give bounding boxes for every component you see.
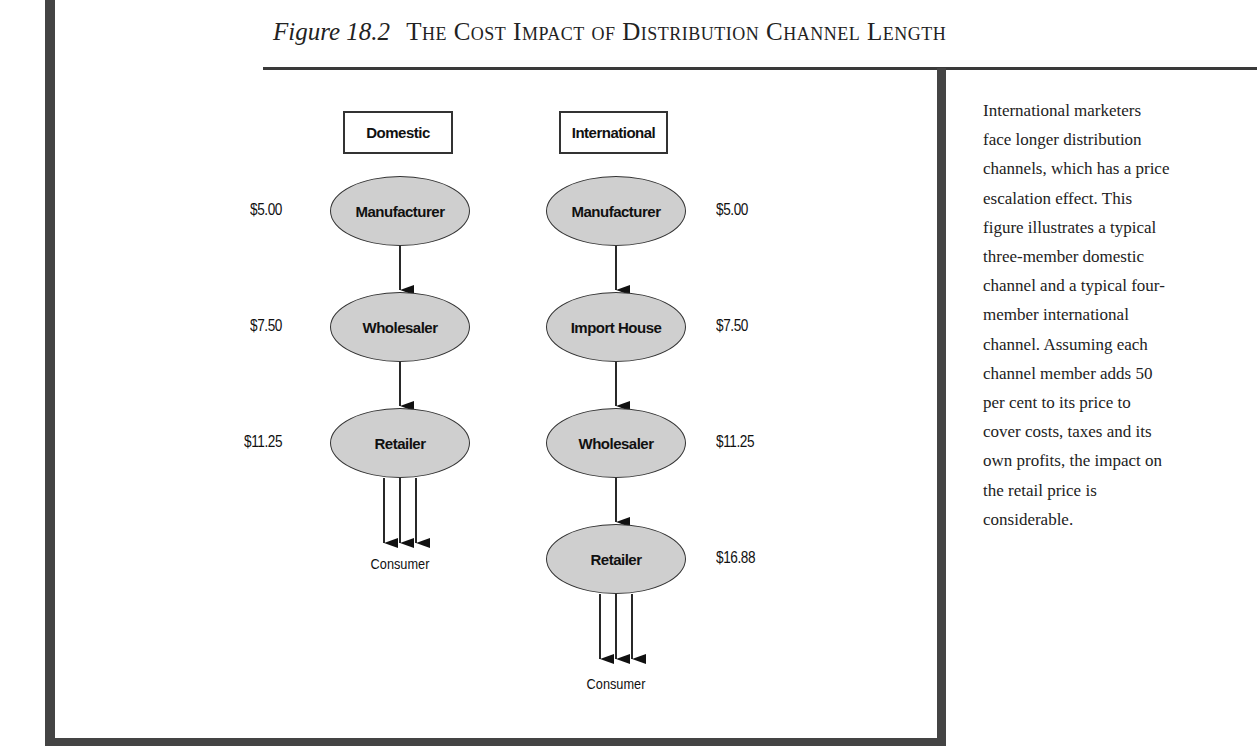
- international-retailer-price: $16.88: [716, 549, 755, 567]
- domestic-consumer-label: Consumer: [349, 555, 451, 572]
- international-import-house-node: Import House: [546, 292, 686, 362]
- domestic-manufacturer-node: Manufacturer: [330, 176, 470, 246]
- domestic-manufacturer-price: $5.00: [250, 201, 282, 219]
- international-manufacturer-node: Manufacturer: [546, 176, 686, 246]
- international-retailer-node: Retailer: [546, 524, 686, 594]
- international-import-house-price: $7.50: [716, 317, 748, 335]
- international-header: International: [559, 111, 668, 154]
- figure-caption: International marketers face longer dist…: [983, 96, 1257, 534]
- domestic-wholesaler-price: $7.50: [250, 317, 282, 335]
- international-wholesaler-price: $11.25: [716, 433, 754, 451]
- international-consumer-label: Consumer: [565, 675, 667, 692]
- domestic-retailer-node: Retailer: [330, 408, 470, 478]
- domestic-header: Domestic: [343, 111, 453, 154]
- international-manufacturer-price: $5.00: [716, 201, 748, 219]
- domestic-retailer-price: $11.25: [244, 433, 282, 451]
- international-wholesaler-node: Wholesaler: [546, 408, 686, 478]
- domestic-wholesaler-node: Wholesaler: [330, 292, 470, 362]
